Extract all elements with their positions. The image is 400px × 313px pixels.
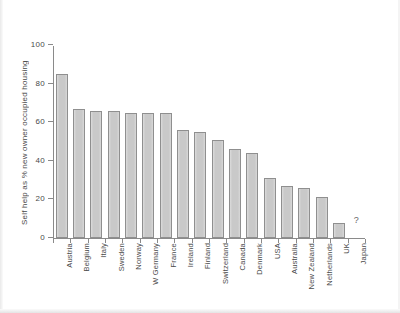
bar [160,113,172,238]
bar [90,111,102,238]
bar [333,223,345,238]
bar [264,178,276,238]
bar [56,74,68,238]
y-tick-label: 80 [36,78,46,87]
y-tick: 0 [48,237,53,238]
bar [229,149,241,238]
x-tick-label: Denmark [255,243,264,275]
x-tick-label: Japan [359,243,368,264]
x-tick-label: Sweden [117,243,126,271]
y-tick-label: 0 [40,233,45,242]
y-tick: 80 [48,83,53,84]
y-tick: 20 [48,198,53,199]
page-edge-left [0,0,3,313]
y-tick-label: 60 [36,117,46,126]
bar [281,186,293,238]
x-tick [53,239,54,243]
x-tick-label: Canada [238,243,247,270]
y-tick: 60 [48,121,53,122]
x-tick-label: Italy [99,243,108,258]
x-tick-label: USA [273,243,282,259]
plot-area: 020406080100 AustriaBelgiumItalySwedenNo… [53,46,365,239]
bar [125,113,137,238]
y-tick: 100 [48,44,53,45]
missing-data-marker: ? [354,215,359,225]
x-tick-label: Ireland [186,243,195,267]
x-tick-label: Belgium [82,243,91,272]
bar [316,197,328,238]
bar [108,111,120,238]
y-tick: 40 [48,160,53,161]
bar [142,113,154,238]
bar [194,132,206,238]
x-tick-label: Australia [290,243,299,274]
x-tick-label: Norway [134,243,143,270]
x-tick-label: W Germany [151,243,160,285]
y-axis-title: Self help as % new owner occupied housin… [18,46,30,239]
x-tick-label: Austria [65,243,74,268]
x-tick-label: Netherlands [325,243,334,286]
bar [177,130,189,238]
y-axis-line [53,46,54,240]
bar [212,140,224,238]
bar [246,153,258,238]
page-edge-bottom [0,309,400,313]
bar [73,109,85,238]
y-tick-label: 20 [36,194,46,203]
y-tick-label: 40 [36,155,46,164]
x-tick-label: UK [342,243,351,254]
x-tick-label: Switzerland [221,243,230,284]
chart-figure: Self help as % new owner occupied housin… [0,0,400,313]
bar [298,188,310,238]
x-tick-label: France [169,243,178,268]
y-tick-label: 100 [31,40,45,49]
x-tick-label: New Zealand [307,243,316,289]
x-tick-label: Finland [203,243,212,269]
